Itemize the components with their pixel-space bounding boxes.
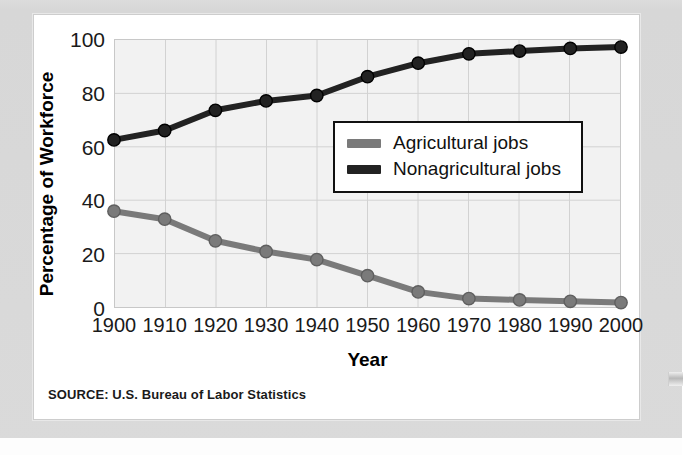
x-axis-title: Year: [114, 349, 621, 371]
y-axis-title: Percentage of Workforce: [36, 54, 58, 314]
y-tick-label: 100: [34, 29, 105, 50]
data-point: [108, 134, 120, 146]
data-point: [260, 95, 272, 107]
scrollbar-artifact[interactable]: [668, 372, 683, 386]
legend-label-agricultural: Agricultural jobs: [393, 132, 528, 154]
line-chart: 020406080100 Percentage of Workforce 190…: [34, 15, 641, 421]
data-point: [361, 71, 373, 83]
data-point: [108, 205, 120, 217]
data-point: [463, 48, 475, 60]
legend-item-nonagricultural: Nonagricultural jobs: [347, 156, 567, 182]
x-tick-label: 2000: [581, 315, 661, 335]
data-point: [615, 41, 627, 53]
chart-legend: Agricultural jobs Nonagricultural jobs: [333, 121, 583, 193]
data-point: [412, 286, 424, 298]
series-line-0: [114, 211, 621, 302]
data-point: [412, 57, 424, 69]
data-point: [361, 270, 373, 282]
data-point: [209, 235, 221, 247]
data-point: [311, 89, 323, 101]
data-point: [564, 42, 576, 54]
data-point: [615, 296, 627, 308]
data-point: [209, 104, 221, 116]
data-point: [159, 213, 171, 225]
data-point: [513, 294, 525, 306]
data-point: [463, 292, 475, 304]
data-point: [311, 253, 323, 265]
data-point: [564, 295, 576, 307]
legend-swatch-nonagricultural: [347, 165, 381, 174]
legend-swatch-agricultural: [347, 139, 381, 148]
legend-item-agricultural: Agricultural jobs: [347, 130, 567, 156]
data-point: [159, 124, 171, 136]
source-note: SOURCE: U.S. Bureau of Labor Statistics: [48, 387, 306, 402]
data-point: [260, 245, 272, 257]
page-bottom-band: [0, 438, 682, 455]
legend-label-nonagricultural: Nonagricultural jobs: [393, 158, 561, 180]
data-point: [513, 45, 525, 57]
figure-card: 020406080100 Percentage of Workforce 190…: [33, 14, 640, 420]
